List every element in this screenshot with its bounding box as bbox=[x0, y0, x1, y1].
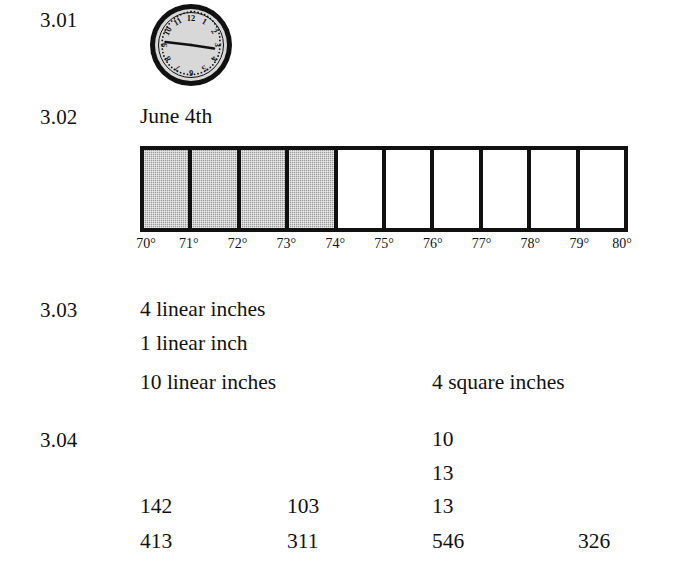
answer-3-02-date: June 4th bbox=[140, 104, 212, 129]
clock-illustration: 12 1 2 3 4 5 6 7 8 9 10 11 bbox=[148, 2, 234, 88]
answer-3-04-r3-c1: 142 bbox=[140, 494, 172, 519]
thermometer-cell bbox=[241, 150, 289, 228]
thermometer-cell bbox=[434, 150, 482, 228]
answer-3-04-r4-c2: 311 bbox=[287, 529, 318, 554]
answer-3-04-r4-c3: 546 bbox=[432, 529, 464, 554]
question-number-3-02: 3.02 bbox=[40, 105, 78, 130]
thermometer-bar-chart bbox=[140, 146, 628, 232]
scale-tick-label: 75° bbox=[374, 236, 394, 252]
thermometer-cell bbox=[338, 150, 386, 228]
answer-3-04-r3-c2: 103 bbox=[287, 494, 319, 519]
thermometer-cell bbox=[386, 150, 434, 228]
answer-3-04-r4-c4: 326 bbox=[578, 529, 610, 554]
thermometer-cell bbox=[531, 150, 579, 228]
scale-tick-label: 79° bbox=[569, 236, 589, 252]
svg-text:12: 12 bbox=[187, 13, 196, 23]
thermometer-cell bbox=[289, 150, 337, 228]
scale-tick-label: 72° bbox=[228, 236, 248, 252]
question-number-3-04: 3.04 bbox=[40, 428, 78, 453]
scale-tick-label: 76° bbox=[423, 236, 443, 252]
question-number-3-01: 3.01 bbox=[40, 8, 78, 33]
answer-3-03-line-1-left: 4 linear inches bbox=[140, 297, 265, 322]
scale-tick-label: 77° bbox=[472, 236, 492, 252]
thermometer-scale-labels: 70°71°72°73°74°75°76°77°78°79°80° bbox=[140, 236, 628, 256]
svg-text:6: 6 bbox=[189, 68, 193, 78]
answer-3-04-r3-c3: 13 bbox=[432, 494, 454, 519]
answer-3-03-line-2-left: 1 linear inch bbox=[140, 331, 247, 356]
scale-tick-label: 78° bbox=[521, 236, 541, 252]
scale-tick-label: 80° bbox=[612, 236, 632, 252]
answer-3-04-r4-c1: 413 bbox=[140, 529, 172, 554]
scale-tick-label: 74° bbox=[325, 236, 345, 252]
answer-3-03-line-3-left: 10 linear inches bbox=[140, 370, 276, 395]
thermometer-cell bbox=[144, 150, 192, 228]
answer-3-04-r2-c3: 13 bbox=[432, 461, 454, 486]
question-number-3-03: 3.03 bbox=[40, 298, 78, 323]
answer-key-page: { "page": { "sections": ["3.01", "3.02",… bbox=[0, 0, 684, 566]
scale-tick-label: 73° bbox=[277, 236, 297, 252]
scale-tick-label: 70° bbox=[136, 236, 156, 252]
thermometer-cell bbox=[580, 150, 624, 228]
thermometer-cell bbox=[192, 150, 240, 228]
thermometer-cell bbox=[483, 150, 531, 228]
answer-3-04-r1-c3: 10 bbox=[432, 427, 454, 452]
thermometer-cells bbox=[140, 146, 628, 232]
svg-text:3: 3 bbox=[213, 43, 223, 47]
scale-tick-label: 71° bbox=[179, 236, 199, 252]
answer-3-03-line-3-right: 4 square inches bbox=[432, 370, 565, 395]
